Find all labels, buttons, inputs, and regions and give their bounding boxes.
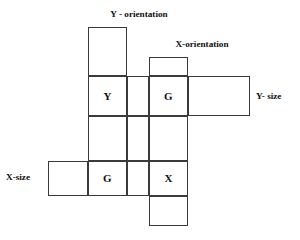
- grid-cell-g-top: G: [149, 76, 188, 116]
- grid-cell: [149, 196, 188, 226]
- grid-cell-x-size: [48, 161, 88, 196]
- diagram-canvas: Y - orientation X-orientation Y- size X-…: [0, 0, 300, 240]
- label-x-size: X-size: [6, 173, 30, 182]
- label-y-orientation: Y - orientation: [110, 10, 167, 19]
- cell-label: G: [103, 173, 112, 184]
- grid-cell: [127, 161, 149, 196]
- cell-label: X: [164, 173, 172, 184]
- grid-cell-g-bottom: G: [88, 161, 127, 196]
- grid-cell-y: Y: [88, 76, 127, 116]
- grid-cell: [127, 116, 149, 161]
- cell-label: Y: [103, 91, 111, 102]
- grid-cell-x: X: [149, 161, 188, 196]
- label-x-orientation: X-orientation: [175, 40, 228, 49]
- grid-cell: [88, 116, 127, 161]
- label-y-size: Y- size: [256, 92, 281, 101]
- grid-cell: [127, 76, 149, 116]
- grid-cell: [149, 57, 188, 76]
- grid-cell: [88, 27, 127, 76]
- grid-cell-y-size: [188, 76, 250, 116]
- cell-label: G: [164, 91, 173, 102]
- grid-cell: [149, 116, 188, 161]
